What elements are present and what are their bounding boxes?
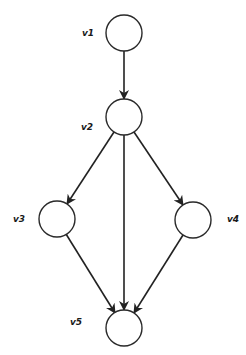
node-label-v1: v1 (82, 28, 94, 38)
edges-group (66, 51, 183, 313)
node-label-v4: v4 (227, 214, 239, 224)
node-label-v2: v2 (81, 122, 93, 132)
node-circle-v5 (106, 310, 142, 346)
node-label-v3: v3 (13, 214, 25, 224)
node-circle-v2 (106, 99, 142, 135)
nodes-group: v1v2v3v4v5 (13, 15, 239, 346)
node-v3: v3 (13, 201, 75, 237)
node-v1: v1 (82, 15, 142, 51)
edge-v3-to-v5 (66, 234, 115, 313)
edge-v2-to-v4 (134, 132, 183, 205)
node-circle-v1 (106, 15, 142, 51)
node-v2: v2 (81, 99, 142, 135)
node-label-v5: v5 (70, 317, 82, 327)
node-v4: v4 (175, 202, 239, 238)
node-v5: v5 (70, 310, 142, 346)
node-circle-v4 (175, 202, 211, 238)
edge-v4-to-v5 (134, 235, 183, 313)
node-circle-v3 (39, 201, 75, 237)
edge-v2-to-v3 (67, 132, 114, 204)
directed-graph-diagram: v1v2v3v4v5 (0, 0, 246, 355)
